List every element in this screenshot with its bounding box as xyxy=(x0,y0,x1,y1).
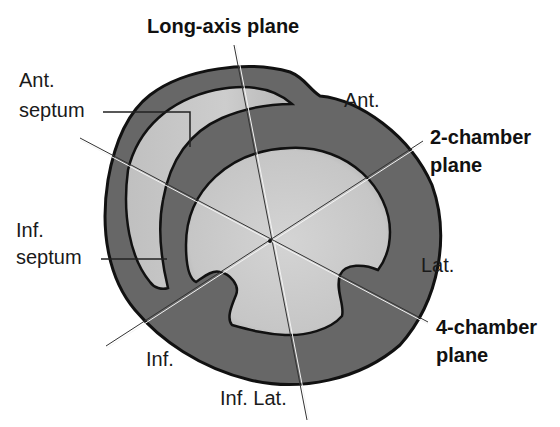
four-chamber-plane-label-line2: plane xyxy=(436,343,488,368)
two-chamber-plane-label-line1: 2-chamber xyxy=(430,125,531,150)
long-axis-plane-label: Long-axis plane xyxy=(147,14,299,39)
four-chamber-plane-label-line1: 4-chamber xyxy=(436,315,537,340)
inf-septum-label-line1: Inf. xyxy=(16,218,44,243)
lat-label: Lat. xyxy=(421,253,454,278)
inf-lat-label: Inf. Lat. xyxy=(220,386,287,411)
ant-label: Ant. xyxy=(344,88,380,113)
inf-label: Inf. xyxy=(146,347,174,372)
inf-septum-label-line2: septum xyxy=(16,245,82,270)
two-chamber-plane-label-line2: plane xyxy=(430,153,482,178)
plane-intersection-point xyxy=(268,239,272,243)
ant-septum-label-line2: septum xyxy=(19,98,85,123)
ant-septum-label-line1: Ant. xyxy=(19,68,55,93)
